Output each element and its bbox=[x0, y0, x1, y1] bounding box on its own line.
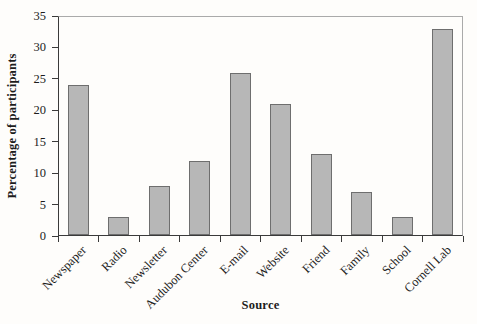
y-tick-label: 5 bbox=[40, 197, 46, 213]
bar-chart: Percentage of participants Source 051015… bbox=[0, 0, 477, 324]
y-tick-label: 25 bbox=[34, 71, 47, 87]
bar-newsletter bbox=[149, 186, 170, 235]
x-tick-mark bbox=[139, 236, 140, 242]
x-tick-label: Family bbox=[338, 243, 373, 278]
bar-e-mail bbox=[230, 73, 251, 235]
plot-area bbox=[58, 16, 463, 236]
x-tick-label: Website bbox=[253, 243, 291, 281]
x-tick-label: Newspaper bbox=[39, 243, 89, 293]
y-tick-mark bbox=[52, 78, 58, 79]
x-tick-mark bbox=[179, 236, 180, 242]
bar-friend bbox=[311, 154, 332, 235]
y-tick-mark bbox=[52, 110, 58, 111]
bar-newspaper bbox=[68, 85, 89, 235]
x-axis-title: Source bbox=[58, 298, 463, 313]
y-tick-mark bbox=[52, 204, 58, 205]
x-tick-label: School bbox=[379, 243, 413, 277]
y-tick-mark bbox=[52, 47, 58, 48]
x-tick-mark bbox=[463, 236, 464, 242]
y-tick-label: 10 bbox=[34, 165, 47, 181]
x-tick-label: Radio bbox=[99, 243, 130, 274]
x-tick-mark bbox=[98, 236, 99, 242]
x-tick-label: Friend bbox=[299, 243, 332, 276]
y-tick-label: 20 bbox=[34, 102, 47, 118]
x-tick-label: E-mail bbox=[217, 243, 251, 277]
x-tick-mark bbox=[341, 236, 342, 242]
x-tick-mark bbox=[220, 236, 221, 242]
y-tick-mark bbox=[52, 141, 58, 142]
x-tick-mark bbox=[301, 236, 302, 242]
bar-audubon-center bbox=[189, 161, 210, 235]
x-tick-mark bbox=[260, 236, 261, 242]
bar-school bbox=[392, 217, 413, 235]
x-tick-mark bbox=[58, 236, 59, 242]
bar-website bbox=[270, 104, 291, 235]
x-tick-mark bbox=[382, 236, 383, 242]
y-axis-title: Percentage of participants bbox=[5, 53, 20, 198]
bar-family bbox=[351, 192, 372, 235]
y-tick-mark bbox=[52, 16, 58, 17]
bar-cornell-lab bbox=[432, 29, 453, 235]
x-tick-mark bbox=[422, 236, 423, 242]
bar-radio bbox=[108, 217, 129, 235]
y-tick-mark bbox=[52, 173, 58, 174]
y-tick-label: 15 bbox=[34, 134, 47, 150]
y-tick-label: 35 bbox=[34, 8, 47, 24]
y-tick-label: 30 bbox=[34, 39, 47, 55]
y-tick-label: 0 bbox=[40, 228, 46, 244]
